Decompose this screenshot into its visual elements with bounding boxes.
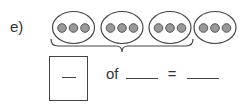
dot (69, 24, 78, 33)
whole-blank[interactable] (126, 64, 158, 79)
of-label: of (106, 65, 119, 82)
dot (106, 24, 115, 33)
result-blank[interactable] (187, 64, 219, 79)
dot (129, 24, 138, 33)
grouped-dots-figure (0, 0, 246, 104)
dot (81, 24, 90, 33)
fraction-bar (62, 77, 76, 78)
equals-sign: = (168, 65, 177, 82)
fraction-answer-box[interactable] (49, 56, 88, 101)
dot (199, 24, 208, 33)
dot (211, 24, 220, 33)
dot (177, 24, 186, 33)
curly-brace (51, 39, 193, 52)
dot (118, 24, 127, 33)
dot (166, 24, 175, 33)
equation: of = (106, 64, 222, 82)
dot (222, 24, 231, 33)
dot (58, 24, 67, 33)
dot (154, 24, 163, 33)
